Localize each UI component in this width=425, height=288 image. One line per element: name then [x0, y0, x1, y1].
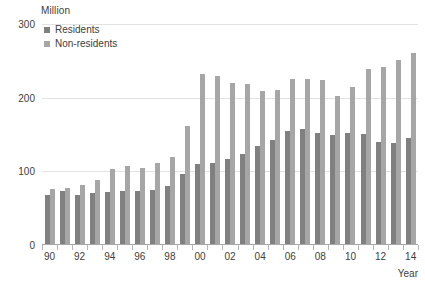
x-axis-tickmark — [117, 245, 118, 250]
bar-non-residents — [80, 185, 85, 245]
bar-non-residents — [65, 188, 70, 245]
x-axis-tickmark — [207, 245, 208, 250]
x-axis-tickmark — [313, 245, 314, 250]
x-axis-tickmark — [87, 245, 88, 250]
x-axis-tickmark — [418, 245, 419, 250]
bar-non-residents — [335, 96, 340, 245]
x-axis-tick-label: 10 — [343, 251, 358, 267]
plot-area — [42, 24, 418, 245]
bar-group — [403, 24, 418, 245]
bar-non-residents — [290, 79, 295, 245]
x-axis-tick-label-blank — [57, 251, 72, 267]
x-axis-tick-label: 08 — [313, 251, 328, 267]
bar-group — [72, 24, 87, 245]
bar-group — [238, 24, 253, 245]
bar-group — [208, 24, 223, 245]
x-axis-tick-label-blank — [328, 251, 343, 267]
bar-group — [328, 24, 343, 245]
x-axis-tickmark — [102, 245, 103, 250]
x-axis-tick-label: 98 — [162, 251, 177, 267]
x-axis-tick-label: 96 — [132, 251, 147, 267]
x-axis-tickmark — [192, 245, 193, 250]
x-axis-tickmark — [358, 245, 359, 250]
x-axis-tick-label-blank — [177, 251, 192, 267]
bar-group — [223, 24, 238, 245]
x-axis-tickmark — [298, 245, 299, 250]
x-axis-tick-label-blank — [298, 251, 313, 267]
bar-non-residents — [110, 169, 115, 245]
x-axis-tick-label: 12 — [373, 251, 388, 267]
x-axis-tickmark — [328, 245, 329, 250]
bar-non-residents — [366, 69, 371, 245]
bar-non-residents — [396, 60, 401, 245]
y-axis: 0100200300 — [0, 0, 40, 288]
bar-non-residents — [140, 168, 145, 245]
bar-group — [102, 24, 117, 245]
x-axis-tick-label: 00 — [192, 251, 207, 267]
x-axis-tickmark — [253, 245, 254, 250]
x-axis-tickmark — [373, 245, 374, 250]
x-axis-tickmark — [42, 245, 43, 250]
bar-group — [132, 24, 147, 245]
bar-group — [87, 24, 102, 245]
x-axis-tick-label-blank — [238, 251, 253, 267]
bar-non-residents — [230, 83, 235, 245]
bar-non-residents — [155, 163, 160, 246]
x-axis-tickmark — [147, 245, 148, 250]
x-axis-tick-label-blank — [117, 251, 132, 267]
x-axis-tick-label-blank — [388, 251, 403, 267]
bar-non-residents — [125, 166, 130, 245]
x-axis-tick-label: 14 — [403, 251, 418, 267]
bar-non-residents — [245, 84, 250, 245]
bar-non-residents — [381, 67, 386, 245]
x-axis-labels: 90 92 94 96 98 00 02 04 06 08 10 12 14 — [42, 251, 418, 267]
x-axis-tick-label: 04 — [253, 251, 268, 267]
x-axis-tickmark — [72, 245, 73, 250]
bar-non-residents — [200, 74, 205, 245]
bar-non-residents — [320, 80, 325, 245]
x-axis-tickmark — [283, 245, 284, 250]
x-axis-tickmark — [388, 245, 389, 250]
x-axis-tickmark — [238, 245, 239, 250]
bar-group — [283, 24, 298, 245]
y-axis-tick-label: 100 — [18, 166, 35, 177]
x-axis-tickmark — [403, 245, 404, 250]
bar-group — [253, 24, 268, 245]
x-axis-tickmark — [343, 245, 344, 250]
x-axis-tick-label: 94 — [102, 251, 117, 267]
y-axis-tick-label: 300 — [18, 19, 35, 30]
bar-group — [268, 24, 283, 245]
x-axis-tick-label-blank — [208, 251, 223, 267]
bar-non-residents — [170, 157, 175, 245]
x-axis-tick-label: 06 — [283, 251, 298, 267]
bar-non-residents — [275, 90, 280, 245]
x-axis-title: Year — [398, 268, 418, 279]
bar-non-residents — [305, 79, 310, 245]
bar-group — [343, 24, 358, 245]
bar-group — [192, 24, 207, 245]
x-axis-tickmark — [177, 245, 178, 250]
x-axis-tick-label-blank — [87, 251, 102, 267]
x-axis-tickmark — [162, 245, 163, 250]
bar-groups — [42, 24, 418, 245]
x-axis-tick-label: 90 — [42, 251, 57, 267]
bar-group — [57, 24, 72, 245]
bar-non-residents — [50, 189, 55, 245]
x-axis-tickmark — [268, 245, 269, 250]
bar-non-residents — [185, 126, 190, 245]
bar-group — [373, 24, 388, 245]
bar-group — [117, 24, 132, 245]
bar-non-residents — [350, 87, 355, 245]
bar-group — [313, 24, 328, 245]
bar-group — [298, 24, 313, 245]
bar-group — [388, 24, 403, 245]
x-axis-tick-label-blank — [268, 251, 283, 267]
bar-non-residents — [95, 180, 100, 245]
bar-group — [358, 24, 373, 245]
bar-group — [42, 24, 57, 245]
x-axis-tick-label-blank — [147, 251, 162, 267]
bar-non-residents — [260, 91, 265, 245]
bar-group — [177, 24, 192, 245]
bar-non-residents — [215, 76, 220, 245]
bar-non-residents — [411, 53, 416, 245]
